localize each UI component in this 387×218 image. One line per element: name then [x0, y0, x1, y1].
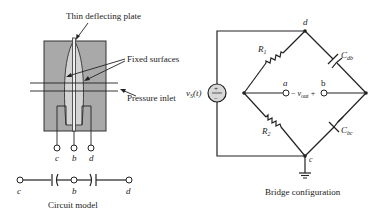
- label-node-b: b: [321, 78, 326, 88]
- label-node-c: c: [309, 155, 313, 164]
- vout-plus: +: [311, 89, 316, 98]
- model-label-d: d: [126, 186, 131, 196]
- label-thin-deflecting-plate: Thin deflecting plate: [66, 11, 141, 21]
- wire-r2-c: [281, 127, 305, 156]
- label-cbc-sub: bc: [347, 130, 353, 136]
- capacitive-pressure-sensor: c b d Thin deflecting plate Fixed surfac…: [30, 11, 180, 163]
- wire-cdb-right: [337, 63, 366, 93]
- label-node-a: a: [283, 78, 288, 88]
- model-label-c: c: [17, 186, 21, 196]
- node-right-dot: [364, 91, 368, 95]
- vout-sub: out: [301, 93, 309, 99]
- terminal-c: [54, 145, 60, 151]
- terminal-b-bridge: [321, 90, 327, 96]
- deflecting-plate: [73, 38, 76, 131]
- wire-source-bottom: [217, 102, 305, 156]
- label-r2-sub: 2: [268, 131, 271, 137]
- label-cdb-sub: db: [347, 55, 353, 61]
- source-plus: +: [214, 85, 218, 93]
- label-vout: −vout+: [291, 89, 316, 99]
- terminal-d: [88, 145, 94, 151]
- source-minus: −: [214, 95, 218, 103]
- model-node-d: [126, 177, 132, 183]
- terminal-label-b: b: [72, 153, 77, 163]
- label-cbc: Cbc: [341, 125, 353, 136]
- label-r1-sub: 1: [264, 49, 267, 55]
- terminal-b: [71, 145, 77, 151]
- source-label-arg: (t): [193, 88, 202, 98]
- label-r1: R1: [257, 44, 267, 55]
- node-left-dot: [242, 91, 246, 95]
- terminal-label-c: c: [55, 153, 59, 163]
- source-label: vS(t): [186, 88, 202, 99]
- label-node-d: d: [303, 17, 308, 27]
- model-node-b: [71, 177, 77, 183]
- caption-bridge-configuration: Bridge configuration: [265, 187, 341, 197]
- terminal-a: [283, 90, 289, 96]
- resistor-r2: [266, 115, 281, 127]
- model-node-c: [17, 177, 23, 183]
- ground-icon: [299, 173, 311, 178]
- label-pressure-inlet: Pressure inlet: [127, 93, 176, 103]
- wire-left-r2: [244, 93, 266, 117]
- wire-r1-left: [244, 63, 266, 93]
- wire-d-cdb: [305, 31, 333, 59]
- resistor-r1: [266, 52, 283, 63]
- terminal-label-d: d: [89, 153, 94, 163]
- vout-minus: −: [291, 89, 296, 98]
- label-r2: R2: [261, 126, 271, 137]
- caption-circuit-model: Circuit model: [48, 200, 98, 210]
- wire-cbc-c: [305, 127, 334, 156]
- wire-source-top: [217, 31, 305, 84]
- label-fixed-surfaces: Fixed surfaces: [127, 54, 180, 64]
- node-d-dot: [303, 29, 307, 33]
- figure: c b d Thin deflecting plate Fixed surfac…: [0, 0, 387, 218]
- circuit-model: c b d Circuit model: [17, 174, 132, 210]
- model-label-b: b: [72, 186, 77, 196]
- label-cdb: Cdb: [341, 50, 353, 61]
- bridge-configuration: + − vS(t) R1 R2 Cdb Cbc a b −vout+: [186, 17, 368, 197]
- wire-d-r1: [283, 31, 305, 53]
